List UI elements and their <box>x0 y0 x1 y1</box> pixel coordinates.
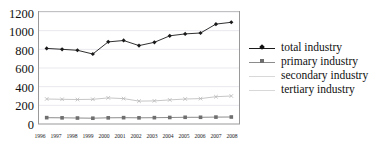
data-point-square <box>168 116 172 120</box>
data-point-square <box>106 116 110 120</box>
x-tick-label: 2003 <box>144 133 160 139</box>
data-point-square <box>214 115 218 119</box>
legend-label: total industry <box>281 41 342 53</box>
data-point-square <box>183 115 187 119</box>
x-tick-label: 1998 <box>64 133 80 139</box>
data-point-square <box>137 116 141 120</box>
legend-label: tertiary industry <box>281 83 355 95</box>
legend-line-icon <box>249 76 275 77</box>
chart-container: 1200 1000 800 600 400 200 0 1996 1997 19… <box>0 0 374 151</box>
x-tick-label: 2002 <box>128 133 144 139</box>
data-point-square <box>76 116 80 120</box>
x-tick-label: 2005 <box>176 133 192 139</box>
data-point-square <box>60 116 64 120</box>
legend-label: primary industry <box>281 55 358 67</box>
x-tick-label: 2007 <box>208 133 224 139</box>
x-tick-label: 2001 <box>112 133 128 139</box>
x-tick-label: 1996 <box>32 133 48 139</box>
legend-square-marker-icon <box>260 59 264 63</box>
x-tick-label: 1999 <box>80 133 96 139</box>
x-tick-label: 2008 <box>224 133 240 139</box>
x-tick-label: 2006 <box>192 133 208 139</box>
data-point-square <box>153 116 157 120</box>
x-tick-label: 2004 <box>160 133 176 139</box>
data-point-square <box>122 116 126 120</box>
data-point-square <box>199 115 203 119</box>
x-tick-label: 2000 <box>96 133 112 139</box>
data-point-square <box>230 115 234 119</box>
x-tick-label: 1997 <box>48 133 64 139</box>
legend-line-icon <box>249 90 275 91</box>
legend-label: secondary industry <box>281 69 368 81</box>
data-point-square <box>45 116 49 120</box>
data-point-square <box>91 116 95 120</box>
